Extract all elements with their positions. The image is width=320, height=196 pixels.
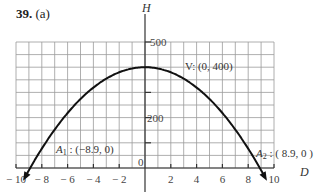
x-tick-label: 2	[168, 173, 174, 185]
x-tick-label: 6	[220, 173, 226, 185]
a1-label: A1 : (−8.9, 0)	[55, 143, 114, 157]
a2-coords: : ( 8.9, 0 )	[267, 147, 313, 160]
x-axis-label: D	[299, 165, 309, 179]
x-tick-label: 10	[269, 173, 281, 185]
y-tick-200: 200	[147, 112, 164, 124]
x-tick-label: − 8	[35, 173, 50, 185]
a2-label: A2 : ( 8.9, 0 )	[255, 147, 313, 161]
left-arrow-head	[23, 171, 30, 181]
x-tick-label: − 6	[60, 173, 75, 185]
y-tick-500: 500	[150, 36, 167, 48]
a1-coords: : (−8.9, 0)	[67, 143, 114, 156]
x-tick-label: 8	[245, 173, 251, 185]
y-axis-label: H	[141, 1, 152, 15]
x-tick-label: − 2	[112, 173, 126, 185]
origin-label: 0	[138, 156, 144, 168]
vertex-label: V: (0, 400)	[185, 60, 233, 73]
right-arrow-head	[260, 171, 267, 181]
x-tick-label: − 4	[86, 173, 101, 185]
x-tick-label: 4	[194, 173, 200, 185]
parabola-chart: − 10− 8− 6− 4− 2246810 H D 0 500 200 V: …	[0, 0, 320, 196]
